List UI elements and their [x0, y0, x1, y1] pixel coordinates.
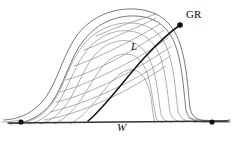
- label-w: W: [117, 122, 126, 133]
- baseline-right-endpoint-marker: [209, 119, 214, 124]
- baseline-left-endpoint-marker: [18, 119, 23, 124]
- crest-endpoint-marker: [177, 22, 183, 28]
- label-l: L: [131, 41, 137, 52]
- label-gr: GR: [186, 9, 201, 20]
- figure-canvas: GR L W: [0, 0, 234, 144]
